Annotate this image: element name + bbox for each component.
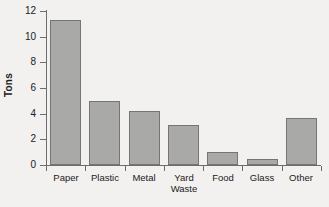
x-tick-mark bbox=[164, 166, 165, 171]
y-tick-mark bbox=[40, 114, 46, 115]
x-tick-mark bbox=[321, 166, 322, 171]
y-tick-label: 8 bbox=[16, 57, 36, 67]
bar bbox=[207, 152, 238, 165]
y-tick-mark bbox=[40, 139, 46, 140]
x-tick-mark bbox=[203, 166, 204, 171]
y-tick-label: 4 bbox=[16, 109, 36, 119]
y-tick-label: 12 bbox=[16, 6, 36, 16]
x-axis-line bbox=[46, 165, 321, 166]
y-tick-mark bbox=[40, 62, 46, 63]
bar bbox=[168, 125, 199, 165]
bar bbox=[89, 101, 120, 165]
bar bbox=[286, 118, 317, 165]
bar bbox=[50, 20, 81, 165]
y-tick-label: 6 bbox=[16, 83, 36, 93]
x-tick-mark bbox=[46, 166, 47, 171]
x-tick-mark bbox=[125, 166, 126, 171]
y-tick-label: 2 bbox=[16, 134, 36, 144]
y-tick-mark bbox=[40, 37, 46, 38]
y-tick-mark bbox=[40, 11, 46, 12]
bar bbox=[129, 111, 160, 165]
x-tick-mark bbox=[85, 166, 86, 171]
bar-chart: Tons 024681012 PaperPlasticMetalYard Was… bbox=[0, 0, 329, 207]
bar bbox=[247, 159, 278, 165]
x-tick-mark bbox=[242, 166, 243, 171]
plot-area: 024681012 PaperPlasticMetalYard WasteFoo… bbox=[0, 0, 329, 207]
y-axis-line bbox=[46, 10, 47, 166]
y-tick-label: 10 bbox=[16, 32, 36, 42]
x-tick-mark bbox=[282, 166, 283, 171]
x-axis-category-label: Other bbox=[277, 172, 325, 183]
y-tick-label: 0 bbox=[16, 160, 36, 170]
y-tick-mark bbox=[40, 88, 46, 89]
